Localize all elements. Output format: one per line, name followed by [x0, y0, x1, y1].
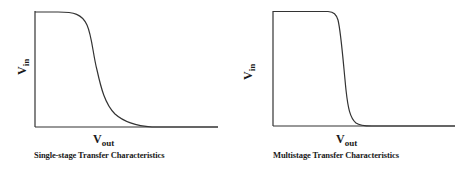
- multistage-panel: Vin Vout Multistage Transfer Characteris…: [0, 0, 473, 180]
- transfer-curve: [273, 12, 455, 127]
- x-axis-label: Vout: [336, 132, 357, 148]
- y-axis-label: Vin: [241, 64, 257, 80]
- multistage-plot: [0, 0, 473, 180]
- caption: Multistage Transfer Characteristics: [273, 150, 399, 160]
